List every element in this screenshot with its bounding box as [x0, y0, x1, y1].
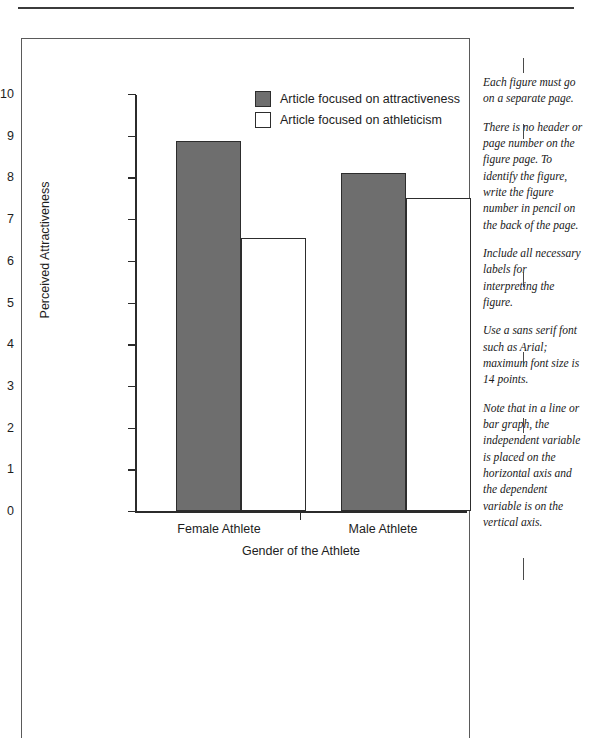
y-tick-10 — [128, 94, 136, 95]
y-tick-2 — [128, 428, 136, 429]
x-group-label-male: Male Athlete — [302, 522, 464, 536]
y-tick-3 — [128, 386, 136, 387]
y-axis-title: Perceived Attractiveness — [38, 140, 52, 360]
bar-male-attractiveness — [341, 173, 406, 511]
y-tick-0 — [128, 511, 136, 512]
y-tick-label-1: 1 — [7, 463, 14, 476]
x-axis-title: Gender of the Athlete — [135, 544, 467, 558]
annotation-leader-4 — [523, 352, 524, 367]
y-tick-label-10: 10 — [0, 88, 14, 101]
legend-item-athleticism: Article focused on athleticism — [255, 109, 460, 130]
y-tick-label-7: 7 — [7, 213, 14, 226]
x-group-label-female: Female Athlete — [138, 522, 300, 536]
annotation-leader-2 — [523, 124, 524, 139]
y-tick-label-8: 8 — [7, 171, 14, 184]
chart-legend: Article focused on attractiveness Articl… — [255, 88, 460, 130]
y-tick-4 — [128, 344, 136, 345]
annotation-note-1: Each figure must go on a separate page. — [483, 74, 583, 107]
margin-annotations: Each figure must go on a separate page. … — [483, 74, 583, 530]
y-tick-label-5: 5 — [7, 296, 14, 309]
y-tick-1 — [128, 469, 136, 470]
annotation-note-3: Include all necessary labels for interpr… — [483, 245, 583, 310]
bar-female-athleticism — [241, 238, 306, 511]
annotation-leader-5 — [523, 418, 524, 433]
annotation-leader-3 — [523, 272, 524, 287]
y-tick-label-9: 9 — [7, 129, 14, 142]
y-tick-label-3: 3 — [7, 380, 14, 393]
legend-swatch-open-icon — [255, 112, 271, 128]
annotation-leader-1 — [523, 58, 524, 73]
y-tick-label-2: 2 — [7, 421, 14, 434]
annotation-note-2: There is no header or page number on the… — [483, 119, 583, 233]
legend-label-attractiveness: Article focused on attractiveness — [280, 92, 460, 106]
bar-female-attractiveness — [176, 141, 241, 511]
y-tick-5 — [128, 303, 136, 304]
y-tick-label-6: 6 — [7, 255, 14, 268]
y-tick-9 — [128, 136, 136, 137]
annotation-leader-6 — [523, 558, 524, 580]
bar-male-athleticism — [406, 198, 471, 511]
annotation-note-4: Use a sans serif font such as Arial; max… — [483, 322, 583, 387]
y-tick-8 — [128, 177, 136, 178]
y-tick-label-4: 4 — [7, 338, 14, 351]
legend-item-attractiveness: Article focused on attractiveness — [255, 88, 460, 109]
y-tick-7 — [128, 219, 136, 220]
bar-chart: 0 1 2 3 4 5 6 7 8 9 10 Perceived Attract… — [21, 38, 470, 548]
y-tick-label-0: 0 — [7, 505, 14, 518]
x-group-tick-divider — [300, 512, 301, 520]
legend-label-athleticism: Article focused on athleticism — [280, 113, 442, 127]
y-tick-6 — [128, 261, 136, 262]
page-header-rule — [18, 7, 574, 9]
annotation-note-5: Note that in a line or bar graph, the in… — [483, 400, 583, 531]
legend-swatch-filled-icon — [255, 91, 271, 107]
